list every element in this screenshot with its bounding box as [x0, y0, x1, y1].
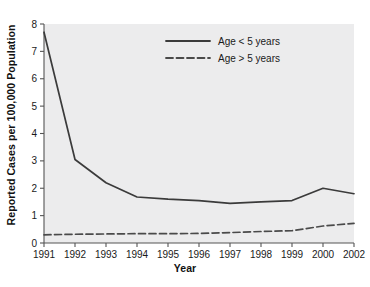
- legend-label: Age < 5 years: [218, 36, 280, 47]
- x-tick-label: 1996: [188, 249, 211, 260]
- y-tick-label: 1: [31, 210, 37, 221]
- legend-label: Age > 5 years: [218, 53, 280, 64]
- line-chart-svg: 012345678 199119921993199419951996199719…: [0, 0, 370, 287]
- x-tick-label: 2000: [312, 249, 335, 260]
- y-tick-label: 3: [31, 155, 37, 166]
- x-tick-label: 1994: [126, 249, 149, 260]
- x-axis-ticks: 1991199219931994199519961997199819992000…: [33, 243, 366, 260]
- x-tick-label: 1993: [95, 249, 118, 260]
- y-tick-label: 2: [31, 183, 37, 194]
- plot-area-background: [44, 24, 354, 243]
- chart-figure: Reported Cases per 100,000 Population Ye…: [0, 0, 370, 287]
- x-tick-label: 1995: [157, 249, 180, 260]
- y-axis-ticks: 012345678: [31, 19, 44, 249]
- x-tick-label: 1997: [219, 249, 242, 260]
- x-tick-label: 1992: [64, 249, 87, 260]
- x-tick-label: 1991: [33, 249, 56, 260]
- y-tick-label: 8: [31, 19, 37, 30]
- y-tick-label: 6: [31, 73, 37, 84]
- x-tick-label: 1998: [250, 249, 273, 260]
- y-tick-label: 0: [31, 238, 37, 249]
- y-tick-label: 7: [31, 46, 37, 57]
- x-tick-label: 2002: [343, 249, 366, 260]
- y-tick-label: 4: [31, 128, 37, 139]
- x-tick-label: 1999: [281, 249, 304, 260]
- y-tick-label: 5: [31, 101, 37, 112]
